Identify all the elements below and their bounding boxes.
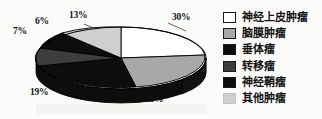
legend-label-schwannoma: 神经鞘瘤	[242, 77, 286, 88]
legend-item-pituitary[interactable]: 垂体瘤	[223, 42, 322, 58]
legend-item-other[interactable]: 其他肿瘤	[223, 90, 322, 106]
legend-swatch-neuroepithelial	[223, 12, 236, 23]
legend-item-meningioma[interactable]: 脑膜肿瘤	[223, 25, 322, 41]
pie-value-label-other: 13%	[69, 11, 87, 21]
leader-line-30	[168, 23, 186, 31]
legend-swatch-schwannoma	[223, 77, 236, 88]
pie-value-label-pituitary: 19%	[30, 88, 48, 98]
legend-swatch-meningioma	[223, 28, 236, 39]
legend-label-pituitary: 垂体瘤	[242, 44, 275, 55]
pie-value-label-neuroepithelial: 30%	[172, 13, 190, 23]
legend-swatch-metastatic	[223, 61, 236, 72]
pie-value-label-schwannoma: 6%	[35, 17, 49, 27]
legend-label-neuroepithelial: 神经上皮肿瘤	[242, 12, 309, 23]
legend-label-other: 其他肿瘤	[242, 93, 286, 104]
legend-label-metastatic: 转移瘤	[242, 61, 275, 72]
pie-chart-plot-area: 30% 25% 19% 7% 6% 13%	[0, 0, 218, 119]
legend-item-schwannoma[interactable]: 神经鞘瘤	[223, 74, 322, 90]
legend-label-meningioma: 脑膜肿瘤	[242, 28, 286, 39]
legend-item-neuroepithelial[interactable]: 神经上皮肿瘤	[223, 9, 322, 25]
pie-chart-figure: 30% 25% 19% 7% 6% 13% 神经上皮肿瘤 脑膜肿瘤 垂体瘤 转移…	[0, 0, 322, 119]
scan-artifact	[36, 104, 206, 114]
pie-slice-neuroepithelial[interactable]	[121, 27, 205, 58]
legend-swatch-other	[223, 93, 236, 104]
legend-swatch-pituitary	[223, 44, 236, 55]
pie-value-label-metastatic: 7%	[13, 27, 27, 37]
chart-legend: 神经上皮肿瘤 脑膜肿瘤 垂体瘤 转移瘤 神经鞘瘤 其他肿瘤	[223, 9, 322, 113]
legend-item-metastatic[interactable]: 转移瘤	[223, 58, 322, 74]
